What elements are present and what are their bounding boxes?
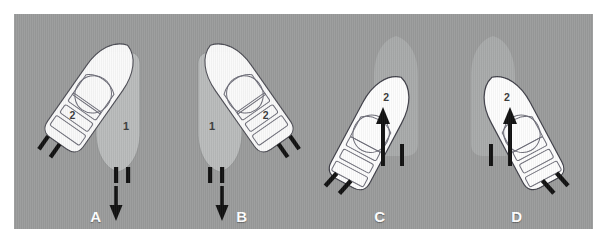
course-bar-icon bbox=[400, 144, 404, 166]
boat-2-label-d: 2 bbox=[504, 91, 510, 103]
panel-c: 1 2 bbox=[304, 14, 456, 229]
course-bar-icon bbox=[381, 140, 385, 166]
figure-canvas: 1 2 A bbox=[0, 0, 607, 243]
figure-panel: 1 2 A bbox=[14, 14, 593, 229]
motor-leg-icon bbox=[277, 143, 290, 159]
panel-a-caption: A bbox=[20, 208, 172, 225]
panel-d: 1 2 bbox=[441, 14, 593, 229]
motor-leg-icon bbox=[49, 143, 62, 159]
panel-d-illustration: 1 2 bbox=[441, 14, 593, 229]
panel-a: 1 2 A bbox=[20, 14, 172, 229]
panel-b-caption: B bbox=[166, 208, 318, 225]
panel-b: 1 2 B bbox=[166, 14, 318, 229]
motor-leg-icon bbox=[114, 167, 118, 183]
course-bar-icon bbox=[508, 140, 512, 166]
panel-a-illustration: 1 2 bbox=[20, 14, 172, 229]
boat-1-label-b: 1 bbox=[209, 120, 215, 132]
motor-leg-icon bbox=[220, 167, 224, 183]
boat-2-label-b: 2 bbox=[263, 109, 269, 121]
boat-2-label-a: 2 bbox=[69, 109, 75, 121]
motor-leg-icon bbox=[37, 135, 50, 151]
panel-d-caption: D bbox=[441, 208, 593, 225]
motor-leg-icon bbox=[126, 167, 130, 183]
motor-leg-icon bbox=[208, 167, 212, 183]
panel-c-caption: C bbox=[304, 208, 456, 225]
course-bar-icon bbox=[489, 144, 493, 166]
panel-c-illustration: 1 2 bbox=[304, 14, 456, 229]
panel-b-illustration: 1 2 bbox=[166, 14, 318, 229]
boat-1-label-a: 1 bbox=[123, 120, 129, 132]
motor-leg-icon bbox=[288, 135, 301, 151]
boat-2-label-c: 2 bbox=[383, 91, 389, 103]
